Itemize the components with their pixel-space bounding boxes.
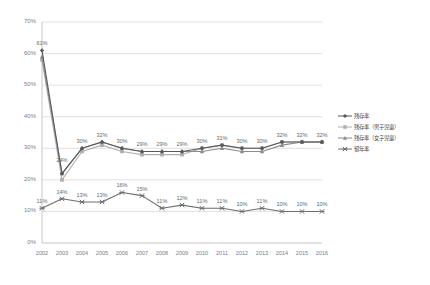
data-point-label: 10% [271, 201, 293, 207]
data-point-label: 30% [111, 138, 133, 144]
y-axis-tick-label: 30% [6, 144, 36, 150]
legend-label: 留年率 [354, 145, 369, 153]
data-point-label: 29% [171, 141, 193, 147]
legend-label: 残存率（女子児童） [354, 134, 399, 142]
y-axis-tick-label: 70% [6, 18, 36, 24]
data-point-label: 10% [311, 201, 333, 207]
cross-marker [279, 209, 284, 213]
cross-marker [99, 200, 104, 204]
cross-marker [79, 200, 84, 204]
y-axis-tick-label: 10% [6, 207, 36, 213]
data-point-label: 11% [151, 198, 173, 204]
data-point-label: 13% [71, 192, 93, 198]
y-axis-tick-label: 20% [6, 176, 36, 182]
cross-marker [299, 209, 304, 213]
y-axis-tick-label: 60% [6, 50, 36, 56]
data-point-label: 31% [211, 135, 233, 141]
data-point-label: 29% [131, 141, 153, 147]
diamond-marker [40, 48, 44, 52]
x-axis-tick-label: 2016 [308, 250, 336, 256]
data-point-label: 11% [211, 198, 233, 204]
chart-container: 0%10%20%30%40%50%60%70% 2002200320042005… [0, 0, 430, 285]
y-axis-tick-label: 0% [6, 239, 36, 245]
cross-marker [342, 147, 347, 151]
legend-swatch-diamond [338, 112, 352, 120]
cross-marker [59, 197, 64, 201]
data-point-label: 32% [271, 132, 293, 138]
data-point-label: 30% [191, 138, 213, 144]
y-axis-tick-label: 40% [6, 113, 36, 119]
data-point-label: 30% [231, 138, 253, 144]
square-marker [343, 125, 347, 129]
legend-swatch-triangle [338, 134, 352, 142]
data-point-label: 29% [151, 141, 173, 147]
cross-marker [319, 209, 324, 213]
data-point-label: 32% [291, 132, 313, 138]
data-point-label: 11% [191, 198, 213, 204]
data-point-label: 32% [91, 132, 113, 138]
data-point-label: 14% [51, 189, 73, 195]
data-point-label: 32% [311, 132, 333, 138]
legend-swatch-cross [338, 145, 352, 153]
series-line [42, 60, 322, 180]
legend-item[interactable]: 残存率（男子児童） [338, 123, 399, 131]
y-axis-tick-label: 50% [6, 81, 36, 87]
data-point-label: 30% [251, 138, 273, 144]
data-point-label: 16% [111, 182, 133, 188]
data-point-label: 61% [31, 40, 53, 46]
legend-label: 残存率（男子児童） [354, 123, 399, 131]
cross-marker [219, 206, 224, 210]
square-marker [60, 178, 64, 182]
diamond-marker [343, 114, 347, 118]
legend-label: 残存率 [354, 112, 369, 120]
data-point-label: 12% [171, 195, 193, 201]
data-point-label: 30% [71, 138, 93, 144]
cross-marker [119, 190, 124, 194]
legend-item[interactable]: 残存率 [338, 112, 369, 120]
cross-marker [179, 203, 184, 207]
line-chart-plot [0, 0, 430, 285]
data-point-label: 24% [51, 157, 73, 163]
data-point-label: 11% [251, 198, 273, 204]
cross-marker [159, 206, 164, 210]
cross-marker [199, 206, 204, 210]
data-point-label: 15% [131, 186, 153, 192]
data-point-label: 10% [291, 201, 313, 207]
data-point-label: 10% [231, 201, 253, 207]
legend-item[interactable]: 留年率 [338, 145, 369, 153]
legend-swatch-square [338, 123, 352, 131]
cross-marker [259, 206, 264, 210]
cross-marker [139, 193, 144, 197]
cross-marker [239, 209, 244, 213]
data-point-label: 13% [91, 192, 113, 198]
legend-item[interactable]: 残存率（女子児童） [338, 134, 399, 142]
data-point-label: 11% [31, 198, 53, 204]
